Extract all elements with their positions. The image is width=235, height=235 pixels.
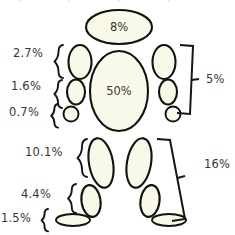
segment-right-lower-leg — [138, 184, 161, 218]
bracket-right-leg — [157, 139, 185, 221]
label-left-hand: 0.7% — [9, 105, 39, 119]
segment-left-hand — [64, 107, 79, 122]
torso-percent-label: 50% — [106, 84, 132, 98]
head-percent-label: 8% — [110, 20, 128, 34]
segment-right-upper-arm — [153, 45, 176, 79]
segment-left-thigh — [85, 136, 117, 189]
brace-left-foot — [42, 209, 48, 231]
label-left-thigh: 10.1% — [25, 145, 63, 159]
brace-left-hand — [51, 104, 58, 128]
segment-right-thigh — [123, 136, 155, 189]
segment-left-lower-leg — [79, 184, 102, 218]
brace-left-lower-leg — [68, 184, 76, 213]
label-right-arm-total: 5% — [206, 72, 225, 86]
label-left-forearm: 1.6% — [11, 79, 41, 93]
bracket-right-leg-tick — [178, 176, 186, 178]
segment-right-forearm — [159, 80, 177, 105]
bracket-right-arm — [177, 45, 193, 114]
bracket-right-arm-tick — [192, 79, 200, 80]
body-surface-area-diagram: · · · · 8% 50% — [0, 0, 235, 235]
label-right-leg-total: 16% — [204, 157, 230, 171]
label-left-lower-leg: 4.4% — [21, 187, 51, 201]
body-figure-svg: 8% 50% — [0, 0, 235, 235]
segment-left-forearm — [67, 80, 85, 105]
brace-left-thigh — [78, 139, 87, 177]
label-left-foot: 1.5% — [1, 211, 31, 225]
brace-left-upper-arm — [55, 45, 64, 78]
segment-left-foot — [56, 214, 90, 226]
label-left-upper-arm: 2.7% — [13, 46, 43, 60]
segment-left-upper-arm — [69, 45, 92, 79]
